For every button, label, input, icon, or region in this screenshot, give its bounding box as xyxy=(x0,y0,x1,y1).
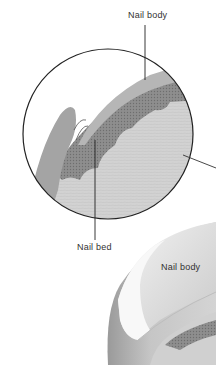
label-nail-body-top: Nail body xyxy=(128,10,167,20)
fingertip-illustration xyxy=(100,222,216,378)
label-nail-bed: Nail bed xyxy=(77,242,112,252)
nail-anatomy-diagram: Nail body Nail bed Nail body xyxy=(0,0,216,378)
label-nail-body: Nail body xyxy=(161,262,200,272)
diagram-artwork xyxy=(0,0,216,378)
